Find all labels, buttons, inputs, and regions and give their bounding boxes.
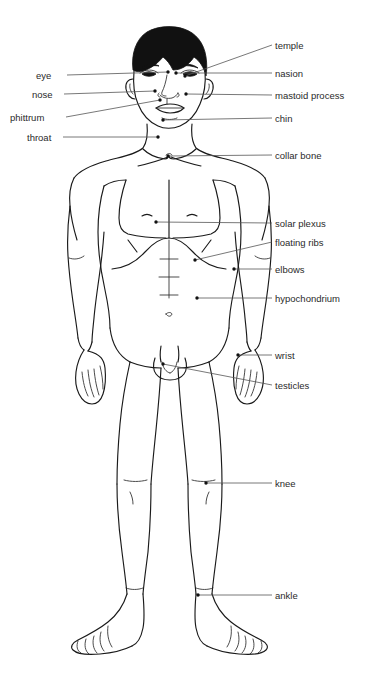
landmark-dot-nasion xyxy=(174,71,177,74)
leader-line-chin xyxy=(163,118,272,120)
label-wrist: wrist xyxy=(275,351,295,361)
label-floating-ribs: floating ribs xyxy=(275,238,324,248)
label-elbows: elbows xyxy=(275,265,305,275)
leader-line-solar-plexus xyxy=(156,222,272,223)
landmark-dot-mastoid-process xyxy=(184,92,187,95)
landmark-dot-chin xyxy=(161,118,164,121)
landmark-dot-solar-plexus xyxy=(154,220,157,223)
chest-muscles xyxy=(119,180,220,238)
landmark-dot-throat xyxy=(156,135,159,138)
landmark-dot-phittrum xyxy=(158,98,161,101)
landmark-dot-temple xyxy=(183,74,186,77)
leader-line-phittrum xyxy=(66,100,160,117)
label-solar-plexus: solar plexus xyxy=(275,219,326,229)
right-leg xyxy=(178,362,267,654)
nose xyxy=(158,75,179,98)
leader-line-collar-bone xyxy=(168,155,272,156)
label-ankle: ankle xyxy=(275,591,298,601)
hair-shape xyxy=(133,27,207,76)
label-nasion: nasion xyxy=(275,69,303,79)
label-knee: knee xyxy=(275,479,296,489)
leader-line-mastoid-process xyxy=(186,94,272,95)
landmark-dot-knee xyxy=(204,481,207,484)
leader-line-nose xyxy=(64,91,155,94)
left-hand xyxy=(76,350,106,404)
neck-and-shoulders xyxy=(74,124,265,178)
landmark-dot-hypochondrium xyxy=(195,296,198,299)
landmark-dot-eye xyxy=(166,70,169,73)
left-leg xyxy=(72,362,161,654)
landmark-dot-testicles xyxy=(161,362,164,365)
label-temple: temple xyxy=(275,41,304,51)
landmark-dot-floating-ribs xyxy=(193,258,196,261)
anatomy-diagram: eyenosephittrumthroat templenasionmastoi… xyxy=(0,0,368,685)
landmark-dot-ankle xyxy=(196,593,199,596)
leader-lines-left xyxy=(63,70,170,138)
label-chin: chin xyxy=(275,114,292,124)
landmark-dot-elbows xyxy=(232,267,235,270)
label-hypochondrium: hypochondrium xyxy=(275,294,340,304)
anatomy-figure-illustration xyxy=(0,0,368,685)
genital-area xyxy=(154,346,187,380)
label-testicles: testicles xyxy=(275,381,309,391)
abdomen xyxy=(110,238,229,368)
label-mastoid-process: mastoid process xyxy=(275,91,344,101)
leader-line-floating-ribs xyxy=(195,242,272,260)
right-hand xyxy=(234,350,264,404)
landmark-dot-wrist xyxy=(236,353,239,356)
label-collar-bone: collar bone xyxy=(275,151,321,161)
mouth xyxy=(156,99,184,120)
label-throat: throat xyxy=(27,133,51,143)
label-nose: nose xyxy=(32,90,53,100)
label-eye: eye xyxy=(36,71,51,81)
landmark-dot-collar-bone xyxy=(166,154,169,157)
landmark-dot-nose xyxy=(153,89,156,92)
label-phittrum: phittrum xyxy=(10,113,44,123)
